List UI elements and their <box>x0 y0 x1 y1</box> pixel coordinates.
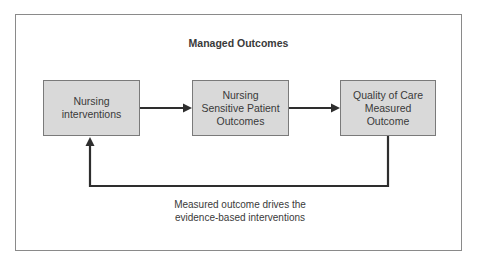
node-nursing-sensitive-patient-outcomes: Nursing Sensitive Patient Outcomes <box>192 80 289 136</box>
node-label: Quality of Care Measured Outcome <box>353 89 423 128</box>
node-quality-of-care-measured-outcome: Quality of Care Measured Outcome <box>340 80 436 136</box>
node-label: Nursing Sensitive Patient Outcomes <box>201 89 279 128</box>
node-label: Nursing interventions <box>62 95 122 121</box>
diagram-title: Managed Outcomes <box>15 37 462 49</box>
node-nursing-interventions: Nursing interventions <box>43 80 140 136</box>
feedback-caption: Measured outcome drives the evidence-bas… <box>150 198 330 224</box>
